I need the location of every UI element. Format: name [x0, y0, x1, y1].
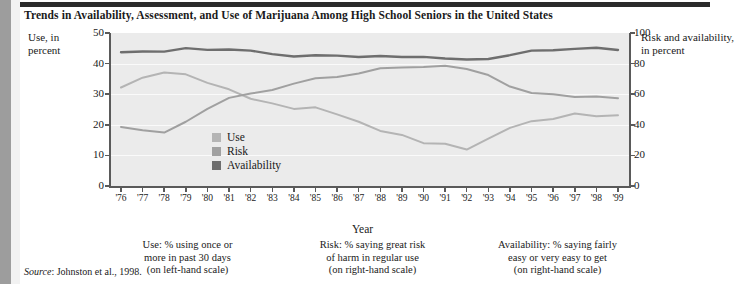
legend-item-risk: Risk: [212, 144, 281, 158]
x-tick-mark-90: [423, 187, 425, 192]
right-tick-label-60: 60: [634, 88, 660, 99]
left-tick-mark-50: [105, 32, 110, 34]
x-tick-mark-77: [142, 187, 144, 192]
legend-swatch-availability: [212, 161, 221, 170]
source-text: : Johnston et al., 1998.: [51, 266, 141, 277]
x-tick-mark-84: [293, 187, 295, 192]
note-use-line2: more in past 30 days: [100, 252, 275, 265]
chart-legend: Use Risk Availability: [212, 130, 281, 172]
x-tick-mark-83: [272, 187, 274, 192]
left-axis-spine: [109, 33, 111, 187]
series-notes: Use: % using once or more in past 30 day…: [100, 239, 645, 277]
x-tick-mark-97: [574, 187, 576, 192]
x-tick-mark-89: [401, 187, 403, 192]
legend-swatch-risk: [212, 147, 221, 156]
left-tick-label-0: 0: [82, 180, 104, 191]
note-availability-line3: (on right-hand scale): [470, 264, 645, 277]
right-tick-label-80: 80: [634, 58, 660, 69]
x-tick-mark-78: [163, 187, 165, 192]
x-tick-mark-82: [250, 187, 252, 192]
left-tick-mark-20: [105, 124, 110, 126]
legend-label-availability: Availability: [227, 158, 281, 172]
x-tick-mark-80: [207, 187, 209, 192]
legend-item-availability: Availability: [212, 158, 281, 172]
note-risk: Risk: % saying great risk of harm in reg…: [285, 239, 460, 277]
left-tick-mark-0: [105, 185, 110, 187]
x-tick-mark-79: [185, 187, 187, 192]
x-tick-mark-98: [596, 187, 598, 192]
legend-swatch-use: [212, 133, 221, 142]
x-tick-mark-85: [315, 187, 317, 192]
x-tick-mark-81: [228, 187, 230, 192]
note-availability: Availability: % saying fairly easy or ve…: [470, 239, 645, 277]
right-tick-mark-80: [630, 63, 635, 65]
right-tick-label-20: 20: [634, 149, 660, 160]
x-tick-mark-96: [552, 187, 554, 192]
note-risk-line2: of harm in regular use: [285, 252, 460, 265]
plot-area: [110, 33, 629, 186]
right-tick-mark-60: [630, 93, 635, 95]
left-tick-label-20: 20: [82, 119, 104, 130]
series-line-risk: [121, 66, 618, 133]
left-tick-label-50: 50: [82, 27, 104, 38]
x-tick-mark-99: [617, 187, 619, 192]
chart-container: Use, in percent Risk and availability, i…: [0, 26, 741, 194]
x-tick-mark-86: [336, 187, 338, 192]
left-tick-mark-10: [105, 155, 110, 157]
note-availability-line2: easy or very easy to get: [470, 252, 645, 265]
right-tick-mark-100: [630, 32, 635, 34]
source-label: Source: [24, 266, 51, 277]
right-tick-label-100: 100: [634, 27, 660, 38]
right-tick-label-0: 0: [634, 180, 660, 191]
left-tick-label-10: 10: [82, 149, 104, 160]
left-tick-mark-30: [105, 93, 110, 95]
note-availability-line1: Availability: % saying fairly: [470, 239, 645, 252]
left-tick-label-30: 30: [82, 88, 104, 99]
note-risk-line3: (on right-hand scale): [285, 264, 460, 277]
legend-label-risk: Risk: [227, 144, 248, 158]
x-tick-mark-88: [380, 187, 382, 192]
note-use-line1: Use: % using once or: [100, 239, 275, 252]
top-rule-divider: [20, 2, 710, 7]
x-tick-mark-76: [120, 187, 122, 192]
x-tick-label-99: '99: [605, 193, 631, 203]
right-tick-mark-0: [630, 185, 635, 187]
right-tick-label-40: 40: [634, 119, 660, 130]
x-tick-mark-87: [358, 187, 360, 192]
source-line: Source: Johnston et al., 1998.: [24, 266, 142, 277]
right-tick-mark-20: [630, 155, 635, 157]
note-risk-line1: Risk: % saying great risk: [285, 239, 460, 252]
x-tick-mark-92: [466, 187, 468, 192]
x-tick-mark-95: [531, 187, 533, 192]
legend-label-use: Use: [227, 130, 245, 144]
series-line-use: [121, 72, 618, 149]
legend-item-use: Use: [212, 130, 281, 144]
left-tick-mark-40: [105, 63, 110, 65]
figure-title: Trends in Availability, Assessment, and …: [24, 9, 553, 21]
series-line-availability: [121, 48, 618, 60]
right-tick-mark-40: [630, 124, 635, 126]
left-tick-label-40: 40: [82, 58, 104, 69]
x-tick-mark-94: [509, 187, 511, 192]
x-axis-title: Year: [0, 223, 725, 235]
left-axis-label: Use, in percent: [28, 31, 90, 57]
x-tick-mark-93: [488, 187, 490, 192]
right-axis-spine: [629, 33, 631, 187]
series-lines: [110, 33, 629, 186]
x-tick-mark-91: [444, 187, 446, 192]
